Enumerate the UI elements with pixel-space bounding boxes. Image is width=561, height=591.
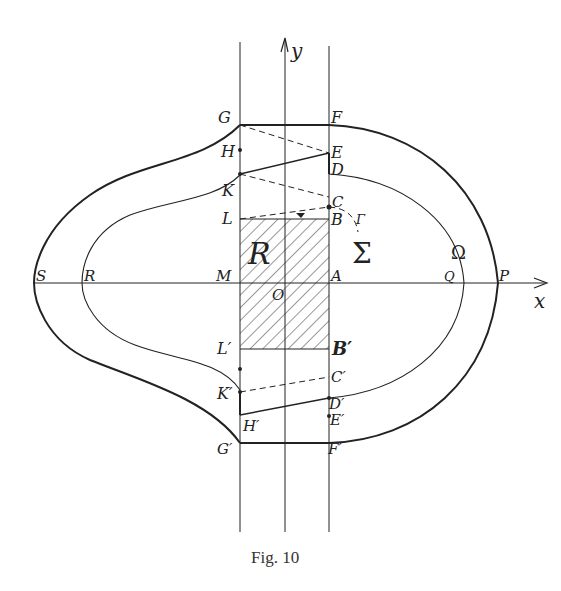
outer-boundary-left [34, 125, 240, 443]
label-B-prime: B′ [331, 338, 352, 359]
small-arrow-icon [296, 213, 305, 218]
label-B: B [330, 210, 343, 229]
point-K-prime [238, 390, 242, 394]
label-F-prime: F′ [327, 440, 342, 458]
label-region-sigma: Σ [352, 237, 372, 270]
label-R: R [83, 267, 95, 285]
label-gamma: Γ [355, 212, 366, 227]
label-region-R: R [247, 236, 271, 271]
point-K [238, 172, 242, 176]
label-G-prime: G′ [217, 440, 233, 458]
figure-caption: Fig. 10 [251, 548, 299, 567]
label-H: H [220, 142, 236, 161]
point-H [238, 148, 242, 152]
point-C [327, 205, 332, 210]
label-region-omega: Ω [451, 242, 466, 263]
label-E-prime: E′ [329, 411, 345, 429]
label-P: P [498, 267, 510, 285]
label-C: C [332, 193, 344, 211]
figure-10: y x G F H E D K C L B Γ R Σ Ω S R M O A … [0, 0, 561, 591]
label-K: K [221, 181, 235, 200]
label-K-prime: K′ [216, 384, 233, 403]
y-axis-label: y [290, 39, 303, 63]
label-D: D [330, 160, 344, 179]
label-O: O [272, 286, 284, 304]
label-Q: Q [444, 269, 455, 284]
inner-boundary-upper [329, 174, 464, 283]
point-lower-dot [238, 367, 242, 371]
label-C-prime: C′ [331, 368, 346, 386]
label-M: M [215, 267, 232, 285]
label-S: S [36, 267, 46, 285]
label-A: A [329, 267, 342, 285]
label-L: L [221, 209, 233, 228]
label-G: G [218, 108, 231, 127]
label-H-prime: H′ [242, 417, 260, 435]
x-axis-label: x [534, 289, 545, 313]
label-L-prime: L′ [216, 339, 232, 358]
label-F: F [330, 108, 343, 127]
